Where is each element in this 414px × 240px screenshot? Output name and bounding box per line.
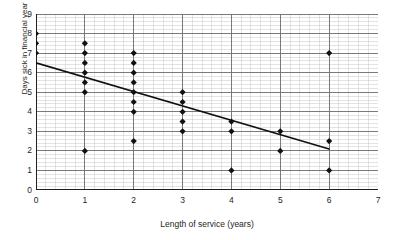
x-tick-label: 7 <box>368 195 388 205</box>
data-point <box>36 50 39 56</box>
data-point <box>131 70 137 76</box>
data-point <box>277 148 283 154</box>
data-point <box>131 89 137 95</box>
data-point <box>82 70 88 76</box>
data-point <box>179 128 185 134</box>
axis-lines <box>36 14 378 190</box>
x-tick-label: 0 <box>26 195 46 205</box>
data-point <box>179 89 185 95</box>
x-tick-label: 1 <box>75 195 95 205</box>
data-point <box>82 89 88 95</box>
plot-area <box>36 14 378 190</box>
x-tick-label: 3 <box>173 195 193 205</box>
y-tick-label: 2 <box>6 145 32 155</box>
y-tick-label: 0 <box>6 185 32 195</box>
data-point <box>36 30 39 36</box>
data-point <box>179 109 185 115</box>
x-tick-label: 6 <box>319 195 339 205</box>
data-point <box>82 148 88 154</box>
x-tick-label: 5 <box>270 195 290 205</box>
data-point <box>326 50 332 56</box>
data-point <box>131 50 137 56</box>
data-point <box>228 167 234 173</box>
y-tick-label: 1 <box>6 165 32 175</box>
data-point <box>82 50 88 56</box>
plot-svg <box>36 14 378 190</box>
data-point <box>228 128 234 134</box>
data-point <box>326 167 332 173</box>
data-point <box>131 109 137 115</box>
y-tick-label: 3 <box>6 126 32 136</box>
x-tick-label: 4 <box>221 195 241 205</box>
y-axis-title: Days sick in financial year <box>20 0 29 119</box>
clipped-header-text <box>0 0 414 9</box>
scatter-chart: 0123456789 01234567 Days sick in financi… <box>0 0 414 240</box>
major-gridlines <box>36 14 378 190</box>
x-tick-label: 2 <box>124 195 144 205</box>
minor-gridlines <box>36 14 378 190</box>
x-axis-title: Length of service (years) <box>36 219 378 229</box>
data-points <box>36 30 332 173</box>
